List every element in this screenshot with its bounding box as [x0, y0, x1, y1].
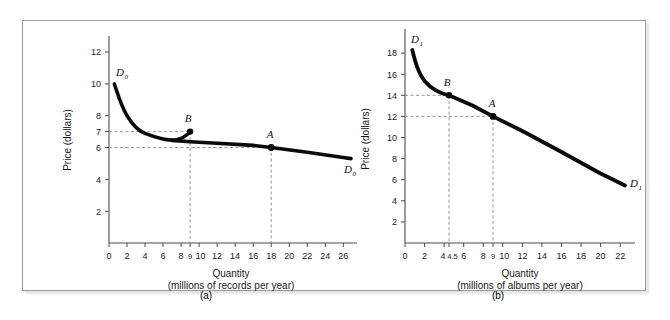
x-tick-label: 18 [576, 251, 586, 261]
x-tick-label: 4.5 [447, 252, 457, 261]
axes-b [405, 29, 635, 243]
x-tick-label: 2 [422, 251, 427, 261]
y-ticks-a: 2 4 6 7 8 10 12 [91, 47, 109, 216]
x-tick-label: 22 [615, 251, 625, 261]
x-tick-label: 4 [142, 251, 147, 261]
y-tick-label: 8 [392, 154, 397, 164]
x-ticks-a: 0 2 4 6 8 9 10 12 14 16 18 20 22 24 26 [106, 243, 348, 261]
point-label-b: B [185, 112, 192, 124]
x-tick-label: 8 [481, 251, 486, 261]
data-point-a [268, 144, 275, 151]
point-label-a: A [488, 97, 496, 109]
demand-curve-d0-right [172, 140, 351, 158]
x-tick-label: 26 [338, 251, 348, 261]
y-ticks-b: 2 4 6 8 10 12 14 16 18 [387, 48, 405, 227]
x-tick-label: 18 [266, 251, 276, 261]
x-axis-title-b: Quantity [501, 268, 538, 279]
y-tick-label: 16 [387, 70, 397, 80]
chart-svg-a: 2 4 6 7 8 10 12 [51, 21, 361, 292]
x-tick-label: 0 [106, 251, 111, 261]
panel-caption-a: (a) [200, 290, 212, 301]
y-tick-label: 14 [387, 91, 397, 101]
curve-label-d0-start: D 0 [115, 66, 129, 81]
x-tick-label: 20 [284, 251, 294, 261]
y-tick-label: 10 [387, 133, 397, 143]
panel-caption-b: (b) [492, 290, 504, 301]
demand-curve-d1 [412, 50, 625, 186]
y-tick-label: 12 [387, 112, 397, 122]
x-axis-title-a: Quantity [212, 268, 249, 279]
curve-label-text: D [410, 33, 419, 45]
curve-label-subscript: 0 [125, 73, 129, 81]
y-tick-label: 2 [392, 217, 397, 227]
x-tick-label: 24 [320, 251, 330, 261]
y-tick-label: 12 [91, 47, 101, 57]
y-tick-label: 7 [96, 127, 101, 137]
y-tick-label: 4 [96, 175, 101, 185]
curve-label-text: D [343, 163, 352, 175]
curve-label-d1-start: D 1 [410, 33, 423, 48]
curve-label-text: D [115, 66, 124, 78]
data-point-b [187, 128, 193, 134]
x-tick-label: 9 [188, 252, 192, 261]
x-tick-label: 10 [195, 251, 205, 261]
x-tick-label: 6 [461, 251, 466, 261]
curve-label-d1-end: D 1 [629, 177, 642, 192]
x-tick-label: 16 [556, 251, 566, 261]
chart-panel-a: 2 4 6 7 8 10 12 [51, 21, 361, 292]
curve-label-text: D [629, 177, 638, 189]
x-tick-label: 4 [440, 251, 445, 261]
axes-a [109, 36, 357, 243]
x-tick-label: 0 [402, 251, 407, 261]
x-tick-label: 9 [491, 252, 495, 261]
curve-label-subscript: 1 [639, 184, 643, 192]
y-tick-label: 8 [96, 111, 101, 121]
x-tick-label: 16 [248, 251, 258, 261]
x-tick-label: 14 [537, 251, 547, 261]
x-tick-label: 22 [302, 251, 312, 261]
x-tick-label: 2 [124, 251, 129, 261]
chart-svg-b: 2 4 6 8 10 12 14 16 18 [353, 21, 643, 292]
point-label-b: B [444, 76, 451, 88]
y-tick-label: 6 [392, 175, 397, 185]
guide-lines-b [405, 95, 493, 243]
point-label-a: A [266, 128, 274, 140]
guide-lines-a [109, 132, 271, 243]
data-point-a [490, 113, 497, 120]
x-tick-label: 14 [230, 251, 240, 261]
y-axis-title-b: Price (dollars) [360, 108, 371, 170]
x-tick-label: 12 [212, 251, 222, 261]
x-ticks-b: 0 2 4 4.5 6 8 9 10 12 14 16 18 20 22 [402, 243, 625, 261]
x-tick-label: 10 [499, 251, 509, 261]
x-tick-label: 6 [160, 251, 165, 261]
figure-frame: 2 4 6 7 8 10 12 [22, 20, 646, 291]
y-tick-label: 2 [96, 207, 101, 217]
y-tick-label: 4 [392, 196, 397, 206]
y-tick-label: 6 [96, 143, 101, 153]
y-tick-label: 18 [387, 48, 397, 58]
x-tick-label: 20 [596, 251, 606, 261]
y-tick-label: 10 [91, 79, 101, 89]
y-axis-title-a: Price (dollars) [62, 109, 73, 171]
x-tick-label: 8 [179, 251, 184, 261]
data-point-b [446, 92, 452, 98]
x-tick-label: 12 [517, 251, 527, 261]
curve-label-subscript: 1 [420, 40, 424, 48]
chart-panel-b: 2 4 6 8 10 12 14 16 18 [353, 21, 663, 292]
